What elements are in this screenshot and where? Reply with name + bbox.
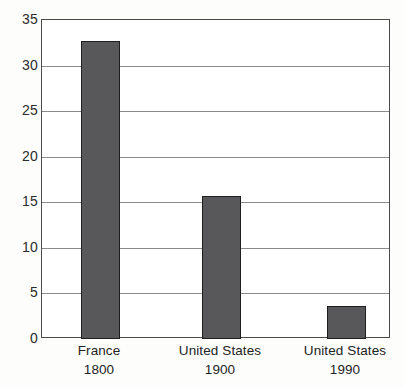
y-axis-tick-label: 35 (4, 12, 38, 26)
x-axis-category-year: 1900 (165, 360, 275, 379)
plot-area (41, 19, 390, 338)
x-axis-category-label: United States1990 (290, 341, 400, 379)
x-axis-category-year: 1990 (290, 360, 400, 379)
x-axis-category-name: United States (290, 341, 400, 360)
x-axis-category-name: France (44, 341, 154, 360)
x-axis-category-label: United States1900 (165, 341, 275, 379)
bar (202, 196, 241, 339)
x-axis-category-year: 1800 (44, 360, 154, 379)
y-axis-tick-label: 15 (4, 194, 38, 208)
y-axis-tick-label: 0 (4, 331, 38, 345)
bar (327, 306, 366, 339)
bar (81, 41, 120, 339)
y-axis-tick-label: 30 (4, 58, 38, 72)
y-axis-tick-label: 5 (4, 285, 38, 299)
y-axis-tick-label: 20 (4, 149, 38, 163)
x-axis-category-label: France1800 (44, 341, 154, 379)
y-axis-tick-labels: 05101520253035 (0, 0, 38, 387)
x-axis-category-name: United States (165, 341, 275, 360)
x-axis-category-labels: France1800United States1900United States… (41, 341, 390, 387)
bar-chart-figure: 05101520253035 France1800United States19… (0, 0, 404, 387)
y-axis-tick-label: 10 (4, 240, 38, 254)
y-axis-tick-label: 25 (4, 103, 38, 117)
chart-screenshot: 05101520253035 France1800United States19… (0, 0, 404, 387)
